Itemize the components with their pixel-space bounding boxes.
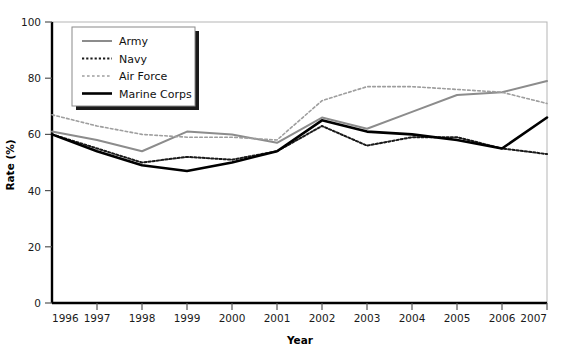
legend-label-marine-corps: Marine Corps [119, 88, 192, 101]
line-chart: 020406080100 199619971998199920002001200… [0, 0, 565, 351]
chart-legend: ArmyNavyAir ForceMarine Corps [72, 27, 199, 110]
legend-label-army: Army [119, 35, 149, 48]
x-tick-label: 2001 [264, 312, 291, 324]
x-tick-label: 1998 [129, 312, 156, 324]
y-tick-label: 100 [21, 16, 41, 28]
y-axis-title: Rate (%) [4, 139, 16, 190]
x-tick-label: 1997 [84, 312, 111, 324]
legend-label-air-force: Air Force [119, 70, 168, 83]
x-tick-label: 2003 [354, 312, 381, 324]
x-tick-label: 2000 [219, 312, 246, 324]
y-tick-label: 60 [28, 128, 41, 140]
x-tick-label: 2004 [399, 312, 426, 324]
y-tick-label: 40 [28, 185, 41, 197]
y-tick-label: 80 [28, 72, 41, 84]
x-tick-label: 2006 [489, 312, 516, 324]
x-axis-title: Year [286, 334, 314, 346]
y-tick-label: 0 [34, 297, 41, 309]
y-tick-label: 20 [28, 241, 41, 253]
x-tick-label: 1996 [52, 312, 79, 324]
x-tick-label: 2002 [309, 312, 336, 324]
x-tick-label: 1999 [174, 312, 201, 324]
x-tick-label: 2005 [444, 312, 471, 324]
x-tick-label: 2007 [520, 312, 547, 324]
chart-canvas: 020406080100 199619971998199920002001200… [0, 0, 565, 351]
legend-label-navy: Navy [119, 53, 147, 66]
